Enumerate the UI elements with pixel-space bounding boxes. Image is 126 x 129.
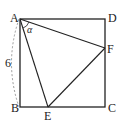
side-length-label: 6 [5,57,11,69]
segment-af [20,19,105,48]
segment-ae [20,19,48,107]
segment-ef [48,48,105,107]
geometry-diagram: A B C D E F 6 α [0,0,126,129]
point-c-label: C [108,102,116,114]
point-b-label: B [11,102,19,114]
square-abcd [20,19,105,107]
point-d-label: D [108,12,117,24]
point-f-label: F [107,43,114,55]
point-a-label: A [10,12,19,24]
point-e-label: E [44,110,51,122]
angle-alpha-label: α [27,25,32,35]
side-length-arc [12,19,20,107]
